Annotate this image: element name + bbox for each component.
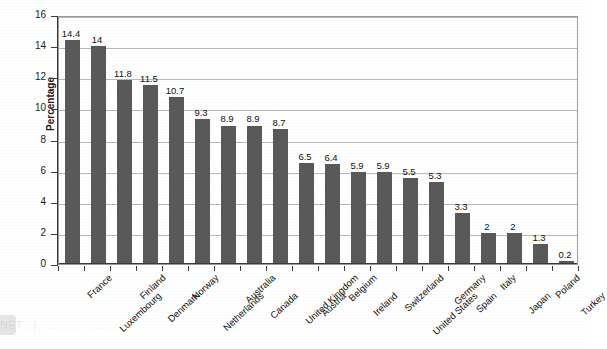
y-axis-tick-label: 10 [12,102,46,113]
x-axis-category-label: France [85,272,114,300]
bar [429,182,444,264]
bar [481,233,496,264]
y-axis-tick-mark [51,265,58,266]
bar-value-label: 8.7 [264,117,294,128]
bar [273,129,288,264]
gridline [59,235,577,236]
x-axis-tick-mark [136,266,137,271]
x-axis-tick-mark [396,266,397,271]
bar [325,164,340,264]
y-axis-tick-label: 16 [12,9,46,20]
bar [91,46,106,264]
y-axis-tick-mark [51,78,58,79]
bar-value-label: 10.7 [160,85,190,96]
y-axis-tick-label: 6 [12,165,46,176]
x-axis-category-label: Poland [553,272,582,300]
x-axis-tick-mark [344,266,345,271]
y-axis-tick-mark [51,172,58,173]
bar [377,172,392,264]
x-axis-tick-mark [500,266,501,271]
y-axis-tick-mark [51,141,58,142]
gridline [59,110,577,111]
bar-value-label: 0.2 [550,249,580,260]
x-axis-category-label: Switzerland [402,272,445,314]
x-axis-category-label: Italy [498,272,518,292]
x-axis-tick-mark [292,266,293,271]
bar [117,80,132,264]
x-axis-tick-mark [318,266,319,271]
x-axis-tick-mark [110,266,111,271]
y-axis-tick-mark [51,47,58,48]
bar-value-label: 11.5 [134,73,164,84]
y-axis-tick-label: 12 [12,71,46,82]
y-axis-tick-mark [51,203,58,204]
x-axis-tick-mark [240,266,241,271]
x-axis-tick-mark [214,266,215,271]
y-axis-tick-label: 14 [12,40,46,51]
x-axis-tick-mark [162,266,163,271]
x-axis-category-label: Canada [268,290,300,321]
bar [247,126,262,265]
y-axis-tick-mark [51,16,58,17]
bar [65,40,80,264]
y-axis-tick-label: 8 [12,134,46,145]
x-axis-tick-mark [58,266,59,271]
gridline [59,48,577,49]
x-axis-tick-mark [578,266,579,271]
bar [533,244,548,264]
x-axis-tick-mark [474,266,475,271]
gridline [59,17,577,18]
y-axis-tick-label: 0 [12,258,46,269]
bar [299,163,314,264]
y-axis-tick-label: 2 [12,227,46,238]
bar [169,97,184,264]
bar [221,126,236,265]
x-axis-category-label: Japan [526,290,552,316]
gridline [59,204,577,205]
x-axis-category-label: Turkey [579,290,607,318]
gridline [59,173,577,174]
x-axis-category-label: Norway [190,272,221,302]
bar [351,172,366,264]
x-axis-tick-mark [370,266,371,271]
bar [143,85,158,264]
bar [195,119,210,264]
bar [403,178,418,264]
x-axis-tick-mark [266,266,267,271]
bar [455,213,470,264]
y-axis-tick-mark [51,109,58,110]
bar-value-label: 14 [82,34,112,45]
x-axis-tick-mark [84,266,85,271]
x-axis-tick-mark [448,266,449,271]
x-axis-tick-mark [526,266,527,271]
x-axis-baseline [59,263,577,264]
bar [507,233,522,264]
x-axis-category-label: Ireland [371,290,400,318]
bar-value-label: 2 [498,221,528,232]
bar-value-label: 5.3 [420,170,450,181]
y-axis-tick-label: 4 [12,196,46,207]
y-axis-tick-mark [51,234,58,235]
gridline [59,142,577,143]
bar-value-label: 3.3 [446,201,476,212]
bar-value-label: 1.3 [524,232,554,243]
x-axis-tick-mark [552,266,553,271]
x-axis-category-label: Spain [474,290,499,315]
x-axis-tick-mark [422,266,423,271]
x-axis-tick-mark [188,266,189,271]
